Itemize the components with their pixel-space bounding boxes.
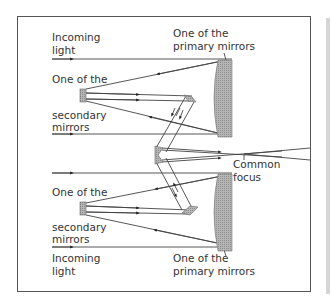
label-incoming-light-bottom: Incoming light <box>52 252 104 277</box>
label-incoming-light-top: Incoming light <box>52 31 104 56</box>
label-secondary-top-2: secondary mirrors <box>52 109 110 133</box>
label-secondary-bottom-1: One of the <box>52 186 107 198</box>
primary-mirror-top <box>214 60 232 137</box>
secondary-mirror-bottom <box>80 202 86 215</box>
label-primary-top: One of the primary mirrors <box>173 27 255 52</box>
telescope-diagram: Incoming light One of the secondary mirr… <box>0 0 331 308</box>
label-secondary-top-1: One of the <box>52 73 107 85</box>
tertiary-mirror-bottom <box>182 206 198 215</box>
label-primary-bottom: One of the primary mirrors <box>173 252 255 277</box>
primary-mirror-bottom <box>214 174 232 251</box>
label-secondary-bottom-2: secondary mirrors <box>52 221 110 245</box>
secondary-mirror-top <box>80 89 86 102</box>
label-common-focus: Common focus <box>233 158 284 183</box>
central-combiner-mirror <box>155 146 163 164</box>
